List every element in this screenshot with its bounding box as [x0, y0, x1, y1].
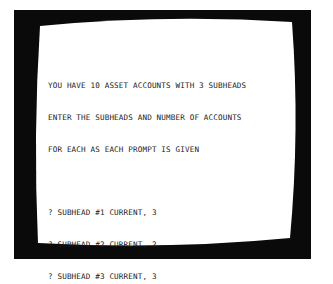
prompt-text: ? SUBHEAD #1 CURRENT, [48, 208, 152, 217]
prompt-line-3[interactable]: ? SUBHEAD #3 CURRENT, 3 [48, 272, 298, 283]
blank-line [48, 177, 298, 188]
prompt-line-2[interactable]: ? SUBHEAD #2 CURRENT, 2 [48, 240, 298, 251]
prompt-line-1[interactable]: ? SUBHEAD #1 CURRENT, 3 [48, 208, 298, 219]
terminal-output: YOU HAVE 10 ASSET ACCOUNTS WITH 3 SUBHEA… [48, 60, 298, 284]
message-line: YOU HAVE 10 ASSET ACCOUNTS WITH 3 SUBHEA… [48, 81, 298, 92]
prompt-input-value[interactable]: 3 [152, 272, 157, 281]
prompt-input-value[interactable]: 2 [152, 240, 157, 249]
message-line: FOR EACH AS EACH PROMPT IS GIVEN [48, 145, 298, 156]
prompt-text: ? SUBHEAD #2 CURRENT, [48, 240, 152, 249]
prompt-input-value[interactable]: 3 [152, 208, 157, 217]
message-line: ENTER THE SUBHEADS AND NUMBER OF ACCOUNT… [48, 113, 298, 124]
prompt-text: ? SUBHEAD #3 CURRENT, [48, 272, 152, 281]
